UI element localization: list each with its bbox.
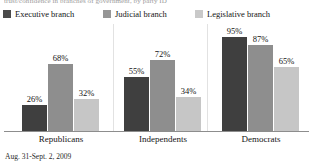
legend-item-executive-branch: Executive branch bbox=[3, 8, 74, 20]
category-label-democrats: Democrats bbox=[206, 134, 313, 145]
bar-value-republicans-judicial: 68% bbox=[48, 54, 73, 63]
bar-value-independents-judicial: 72% bbox=[150, 50, 175, 59]
legend-item-legislative-branch: Legislative branch bbox=[195, 8, 270, 20]
chart-container: trust/confidence in branches of governme… bbox=[0, 0, 313, 167]
bar-independents-executive bbox=[124, 77, 149, 131]
bar-independents-judicial bbox=[150, 60, 175, 131]
plot-area: 26% 68% 32% 55% 72% 34% bbox=[4, 22, 309, 132]
category-axis-labels: Republicans Independents Democrats bbox=[4, 134, 309, 146]
legend-swatch-legislative-icon bbox=[195, 10, 203, 18]
chart-title-text: trust/confidence in branches of governme… bbox=[4, 0, 309, 5]
legend-swatch-judicial-icon bbox=[103, 10, 111, 18]
x-axis-baseline bbox=[4, 131, 309, 132]
legend-item-judicial-branch: Judicial branch bbox=[103, 8, 167, 20]
bar-value-democrats-judicial: 87% bbox=[248, 35, 273, 44]
group-separator-2 bbox=[207, 24, 208, 131]
bar-republicans-judicial bbox=[48, 64, 73, 131]
bar-value-democrats-legislative: 65% bbox=[274, 57, 299, 66]
bar-value-republicans-legislative: 32% bbox=[74, 89, 99, 98]
chart-footnote: Aug. 31-Sept. 2, 2009 bbox=[5, 152, 71, 161]
bar-democrats-judicial bbox=[248, 45, 273, 131]
bar-group-republicans: 26% 68% 32% bbox=[22, 24, 100, 131]
bar-democrats-executive bbox=[222, 37, 247, 131]
bar-republicans-executive bbox=[22, 105, 47, 131]
bar-value-republicans-executive: 26% bbox=[22, 95, 47, 104]
group-separator-1 bbox=[113, 24, 114, 131]
bar-group-democrats: 95% 87% 65% bbox=[222, 24, 300, 131]
category-label-independents: Independents bbox=[108, 134, 218, 145]
chart-legend: Executive branch Judicial branch Legisla… bbox=[3, 8, 310, 20]
bar-democrats-legislative bbox=[274, 67, 299, 131]
legend-label-legislative: Legislative branch bbox=[207, 10, 270, 19]
bar-independents-legislative bbox=[176, 97, 201, 131]
chart-title-clipped: trust/confidence in branches of governme… bbox=[4, 0, 309, 6]
bar-value-independents-executive: 55% bbox=[124, 67, 149, 76]
bar-value-democrats-executive: 95% bbox=[222, 27, 247, 36]
legend-label-executive: Executive branch bbox=[15, 10, 74, 19]
bar-republicans-legislative bbox=[74, 99, 99, 131]
legend-swatch-executive-icon bbox=[3, 10, 11, 18]
legend-label-judicial: Judicial branch bbox=[115, 10, 167, 19]
category-label-republicans: Republicans bbox=[6, 134, 116, 145]
bar-value-independents-legislative: 34% bbox=[176, 87, 201, 96]
bar-group-independents: 55% 72% 34% bbox=[124, 24, 202, 131]
